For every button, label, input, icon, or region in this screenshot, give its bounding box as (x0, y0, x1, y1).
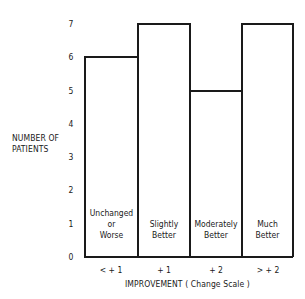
bar-label: Moderately Better (191, 219, 241, 241)
x-tick-greater-than-plus-2: > + 2 (242, 265, 294, 275)
x-axis-baseline (84, 256, 293, 258)
bar-slightly-better: Slightly Better (137, 23, 191, 257)
y-tick-2: 2 (64, 185, 78, 195)
y-tick-7: 7 (64, 19, 78, 29)
y-axis-label-line-2: PATIENTS (12, 144, 59, 155)
bar-label-line: or (86, 219, 137, 230)
y-tick-0: 0 (64, 252, 78, 262)
bar-much-better: Much Better (241, 23, 294, 257)
x-tick-plus-1: + 1 (138, 265, 190, 275)
bar-label-line: Better (139, 230, 189, 241)
x-tick-less-than-plus-1: < + 1 (85, 265, 137, 275)
y-tick-4: 4 (64, 119, 78, 129)
bar-label-line: Unchanged (86, 208, 137, 219)
bar-label-line: Better (191, 230, 241, 241)
y-tick-6: 6 (64, 52, 78, 62)
bar-label-line: Worse (86, 230, 137, 241)
y-tick-1: 1 (64, 219, 78, 229)
x-tick-plus-2: + 2 (190, 265, 242, 275)
bar-moderately-better: Moderately Better (189, 90, 243, 257)
bar-label-line: Moderately (191, 219, 241, 230)
y-tick-5: 5 (64, 86, 78, 96)
y-tick-3: 3 (64, 152, 78, 162)
y-axis-label-line-1: NUMBER OF (12, 133, 59, 144)
bar-chart: NUMBER OF PATIENTS 0 1 2 3 4 5 6 7 Uncha… (0, 0, 305, 299)
y-axis-label: NUMBER OF PATIENTS (12, 133, 59, 155)
bar-unchanged-or-worse: Unchanged or Worse (84, 56, 139, 257)
bar-label-line: Better (243, 230, 292, 241)
bar-label-line: Slightly (139, 219, 189, 230)
bar-label: Much Better (243, 219, 292, 241)
bar-label: Slightly Better (139, 219, 189, 241)
bar-label-line: Much (243, 219, 292, 230)
x-axis-label: IMPROVEMENT ( Change Scale ) (125, 279, 250, 289)
bar-label: Unchanged or Worse (86, 208, 137, 241)
